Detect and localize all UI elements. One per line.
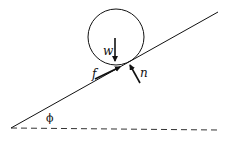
diagram-canvas: w f n ϕ — [0, 0, 228, 141]
horizontal-reference-line — [11, 128, 218, 130]
cylinder-circle — [88, 9, 144, 65]
angle-label: ϕ — [46, 112, 54, 125]
weight-label: w — [103, 44, 114, 58]
friction-arrow — [95, 67, 120, 79]
normal-label: n — [140, 66, 148, 80]
free-body-diagram: w f n ϕ — [0, 0, 228, 141]
normal-arrow — [130, 65, 140, 83]
